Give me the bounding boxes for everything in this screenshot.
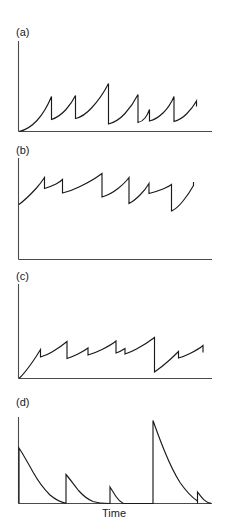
panel-d: (d) Time: [0, 396, 242, 532]
panel-d-label: (d): [16, 397, 29, 408]
panel-a: (a): [0, 0, 242, 140]
panel-a-plot: [0, 0, 242, 140]
panel-b: (b): [0, 140, 242, 268]
panel-b-trace: [19, 174, 194, 212]
panel-b-label: (b): [16, 145, 29, 156]
figure-panels: (a) (b) (c) (d): [0, 0, 242, 532]
panel-c-label: (c): [16, 271, 29, 282]
panel-a-label: (a): [16, 27, 29, 38]
panel-d-trace: [19, 421, 211, 504]
x-axis-label-time: Time: [102, 508, 126, 519]
panel-a-trace: [19, 84, 197, 132]
panel-b-plot: [0, 140, 242, 268]
panel-c: (c): [0, 268, 242, 396]
panel-c-trace: [19, 338, 203, 379]
panel-c-plot: [0, 268, 242, 396]
